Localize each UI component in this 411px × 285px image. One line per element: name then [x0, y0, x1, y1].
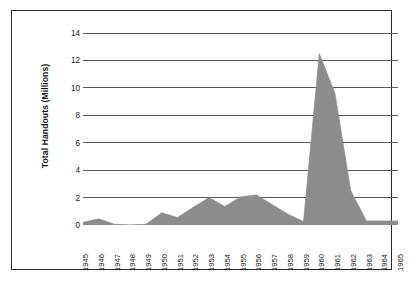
- area-chart-svg: [83, 33, 398, 225]
- y-tick-label-2: 2: [56, 193, 80, 202]
- x-axis-tick-labels: 1945194619471948194919501951195219531954…: [83, 227, 398, 271]
- y-tick-label-8: 8: [56, 111, 80, 120]
- chart-figure: Total Handouts (Millions) 02468101214 19…: [0, 0, 411, 285]
- y-tick-label-10: 10: [56, 83, 80, 92]
- x-tick-label-1965: 1965: [394, 231, 411, 271]
- y-axis-title: Total Handouts (Millions): [40, 36, 50, 196]
- y-tick-label-6: 6: [56, 138, 80, 147]
- y-tick-label-14: 14: [56, 29, 80, 38]
- y-tick-label-12: 12: [56, 56, 80, 65]
- plot-area: [83, 33, 398, 225]
- y-tick-label-4: 4: [56, 166, 80, 175]
- y-tick-label-0: 0: [56, 221, 80, 230]
- gridlines: [83, 33, 398, 198]
- series-area-total-handouts: [83, 54, 398, 225]
- area-fill: [83, 54, 398, 225]
- y-axis-tick-labels: 02468101214: [56, 33, 80, 225]
- figure-border: Total Handouts (Millions) 02468101214 19…: [11, 10, 392, 270]
